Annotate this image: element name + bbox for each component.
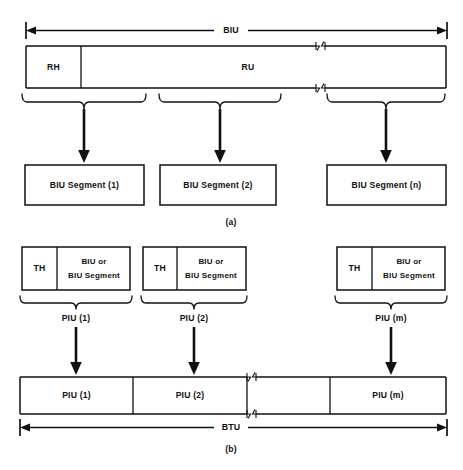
biu-segment-label-1: BIU Segment (1): [50, 180, 119, 190]
ru-field-label: RU: [242, 62, 255, 72]
piu-brace-label-1: PIU (1): [62, 313, 91, 323]
part-b-caption: (b): [225, 444, 237, 454]
piu-th-label-3: TH: [349, 263, 361, 273]
btu-cell-label-4: PIU (m): [372, 390, 403, 400]
piu-brace-1: [20, 296, 132, 310]
piu-to-btu-arrow-1: [70, 327, 82, 375]
piu-brace-3: [335, 296, 447, 310]
rh-field-label: RH: [47, 62, 60, 72]
biu-segment-arrow-3: [380, 109, 392, 163]
figure-diagram: BIU RH RU BIU Segment (1) BIU Segment: [0, 0, 463, 470]
piu-brace-label-3: PIU (m): [375, 313, 406, 323]
piu-th-label-1: TH: [34, 263, 46, 273]
piu-payload-line1-3: BIU or: [396, 257, 421, 266]
part-a-caption: (a): [225, 217, 236, 227]
biu-segment-label-3: BIU Segment (n): [352, 180, 422, 190]
piu-brace-label-2: PIU (2): [180, 313, 209, 323]
btu-dimension-label: BTU: [222, 422, 241, 432]
piu-brace-2: [141, 296, 247, 310]
biu-segment-label-2: BIU Segment (2): [183, 180, 252, 190]
biu-segment-brace-1: [22, 94, 146, 109]
biu-segment-brace-2: [159, 94, 281, 109]
biu-dimension-label: BIU: [223, 25, 239, 35]
piu-payload-line2-1: BIU Segment: [68, 271, 120, 280]
piu-payload-line2-3: BIU Segment: [383, 271, 435, 280]
piu-payload-line1-2: BIU or: [198, 257, 223, 266]
piu-to-btu-arrow-2: [188, 327, 200, 375]
piu-th-label-2: TH: [154, 263, 166, 273]
btu-cell-label-1: PIU (1): [62, 390, 91, 400]
biu-segment-arrow-1: [78, 109, 90, 163]
piu-payload-line1-1: BIU or: [81, 257, 106, 266]
biu-segment-brace-3: [327, 94, 445, 109]
biu-bar: [26, 42, 446, 93]
piu-payload-line2-2: BIU Segment: [185, 271, 237, 280]
piu-to-btu-arrow-3: [385, 327, 397, 375]
btu-cell-label-2: PIU (2): [176, 390, 205, 400]
biu-segment-arrow-2: [214, 109, 226, 163]
